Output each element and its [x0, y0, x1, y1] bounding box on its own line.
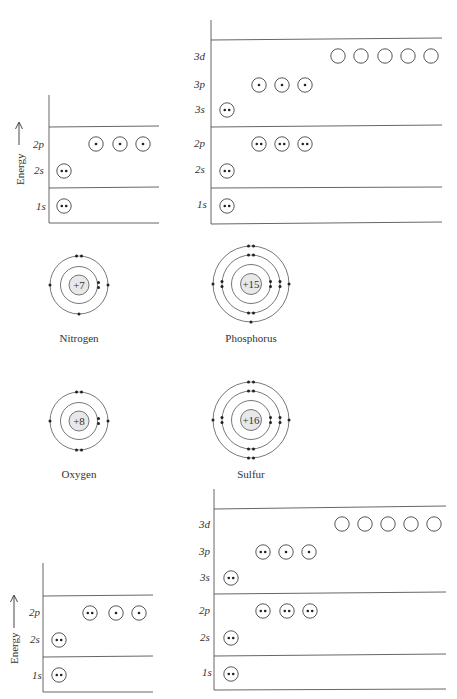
orbital-2s	[57, 164, 71, 178]
orbital-diagrams: Energy 2p 2s 1s	[0, 0, 457, 699]
level-label-2p: 2p	[33, 138, 45, 150]
sulfur-atom-model: +16 Sulfur	[212, 381, 291, 481]
oxygen-energy-diagram: Energy 2p 2s 1s	[8, 563, 153, 692]
orbital-1s	[57, 199, 71, 213]
level-label-3p: 3p	[193, 78, 206, 90]
orbital-2s	[52, 633, 66, 647]
orbital-1s	[220, 199, 234, 213]
orbital-2p	[252, 137, 312, 151]
level-label-3p: 3p	[198, 545, 211, 557]
orbital-3p	[252, 78, 312, 92]
level-label-3d: 3d	[198, 518, 211, 530]
orbital-3s	[224, 571, 238, 585]
orbital-1s	[224, 667, 238, 681]
nucleus-charge: +16	[242, 414, 260, 426]
level-label-2p: 2p	[194, 137, 206, 149]
atom-name: Phosphorus	[225, 332, 276, 344]
orbital-2s	[224, 631, 238, 645]
level-label-2s: 2s	[195, 163, 205, 175]
level-label-2s: 2s	[34, 164, 44, 176]
energy-label: Energy	[8, 632, 20, 664]
nucleus-charge: +7	[73, 279, 85, 291]
orbital-2p	[256, 604, 317, 618]
oxygen-atom-model: +8 Oxygen	[49, 391, 110, 481]
orbital-3d	[331, 49, 438, 63]
level-label-2s: 2s	[200, 631, 210, 643]
nitrogen-energy-diagram: Energy 2p 2s 1s	[14, 95, 159, 223]
orbital-3d	[335, 517, 441, 531]
nitrogen-atom-model: +7 Nitrogen	[49, 255, 110, 345]
level-label-3s: 3s	[194, 103, 205, 115]
level-label-1s: 1s	[197, 198, 207, 210]
orbital-2p	[83, 606, 146, 620]
nucleus-charge: +15	[242, 278, 260, 290]
energy-label: Energy	[14, 153, 26, 185]
orbital-2p	[89, 137, 150, 151]
energy-axis: Energy	[14, 122, 26, 185]
atom-name: Oxygen	[62, 468, 97, 480]
level-label-1s: 1s	[32, 669, 42, 681]
level-label-1s: 1s	[36, 200, 46, 212]
nucleus-charge: +8	[73, 415, 85, 427]
atom-name: Sulfur	[237, 468, 265, 480]
orbital-1s	[52, 668, 66, 682]
orbital-3s	[220, 103, 234, 117]
phosphorus-energy-diagram: 3d 3p 3s 2p 2s 1s	[193, 20, 442, 224]
level-label-2s: 2s	[30, 633, 40, 645]
level-label-3d: 3d	[193, 50, 206, 62]
phosphorus-atom-model: +15 Phosphorus	[212, 245, 291, 345]
orbital-3p	[256, 545, 316, 559]
level-label-2p: 2p	[199, 604, 211, 616]
level-label-1s: 1s	[202, 666, 212, 678]
orbital-2s	[220, 164, 234, 178]
sulfur-energy-diagram: 3d 3p 3s 2p 2s 1s	[198, 489, 446, 690]
level-label-3s: 3s	[199, 571, 210, 583]
atom-name: Nitrogen	[59, 332, 99, 344]
energy-axis: Energy	[8, 595, 20, 664]
level-label-2p: 2p	[29, 606, 41, 618]
